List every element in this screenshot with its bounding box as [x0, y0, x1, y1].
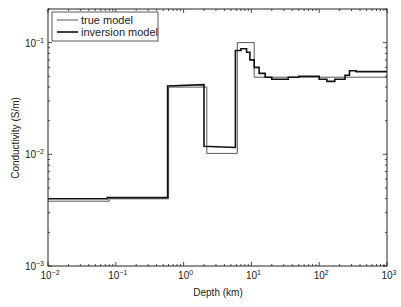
- legend-label-true-model: true model: [81, 14, 133, 26]
- x-axis-label: Depth (km): [193, 287, 242, 298]
- x-tick-label: 100: [178, 269, 193, 281]
- x-tick-label: 102: [314, 269, 329, 281]
- series-true-model: [48, 43, 387, 202]
- y-tick-label: 10−1: [25, 37, 44, 49]
- x-tick-label: 10−1: [108, 269, 127, 281]
- conductivity-depth-chart: 10−210−110010110210310−310−210−1 true mo…: [0, 0, 401, 307]
- y-tick-label: 10−2: [25, 148, 44, 160]
- series-inversion-model: [48, 49, 387, 199]
- x-tick-label: 101: [246, 269, 261, 281]
- axes-layer: 10−210−110010110210310−310−210−1: [25, 9, 397, 281]
- legend-label-inversion-model: inversion model: [81, 26, 158, 38]
- series-layer: [48, 43, 387, 202]
- x-tick-label: 10−2: [40, 269, 59, 281]
- x-tick-label: 103: [381, 269, 396, 281]
- y-axis-label: Conductivity (S/m): [10, 97, 21, 179]
- axes-frame: [48, 9, 387, 266]
- legend: true model inversion model: [52, 12, 158, 41]
